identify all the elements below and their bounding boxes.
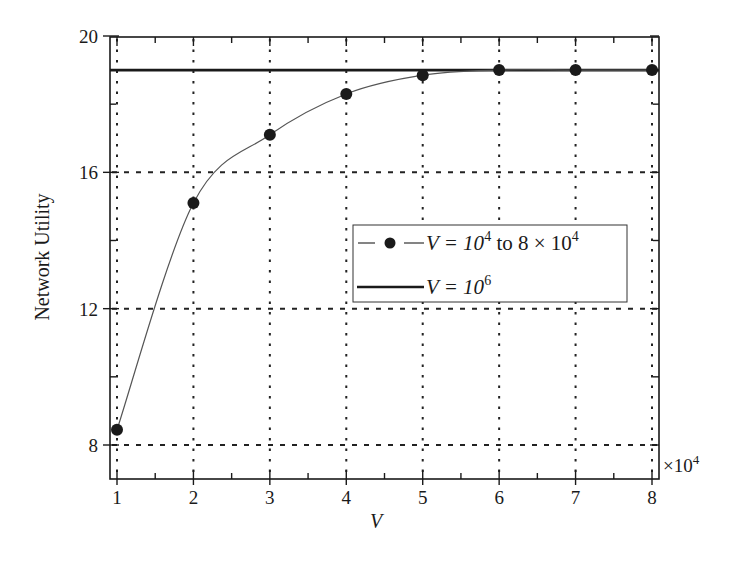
- x-tick-label: 3: [265, 487, 275, 508]
- legend-marker-icon: [385, 238, 396, 249]
- x-tick-label: 4: [342, 487, 352, 508]
- y-tick-label: 16: [79, 162, 98, 183]
- y-tick-labels: 8121620: [79, 26, 98, 456]
- x-tick-label: 1: [112, 487, 122, 508]
- y-tick-label: 20: [79, 26, 98, 47]
- y-tick-label: 12: [79, 299, 98, 320]
- x-tick-label: 6: [494, 487, 504, 508]
- data-point-marker: [570, 64, 582, 76]
- data-point-marker: [646, 64, 658, 76]
- data-point-marker: [187, 197, 199, 209]
- legend-label-v-1e6: V = 106: [426, 273, 491, 299]
- legend-label-v-range: V = 104 to 8 × 104: [426, 229, 579, 255]
- x-axis-label: V: [370, 510, 385, 532]
- x-tick-label: 8: [647, 487, 657, 508]
- x-tick-label: 2: [189, 487, 199, 508]
- x-tick-labels: 12345678: [112, 487, 657, 508]
- x-multiplier-label: ×104: [663, 452, 700, 476]
- data-point-marker: [417, 69, 429, 81]
- data-point-marker: [264, 129, 276, 141]
- x-tick-label: 5: [418, 487, 428, 508]
- y-axis-label: Network Utility: [31, 193, 54, 320]
- network-utility-chart: 8121620 12345678 Network Utility V ×104 …: [0, 0, 741, 562]
- data-point-marker: [111, 424, 123, 436]
- legend: V = 104 to 8 × 104 V = 106: [353, 225, 627, 302]
- data-point-marker: [340, 88, 352, 100]
- data-point-marker: [493, 64, 505, 76]
- y-tick-label: 8: [89, 435, 99, 456]
- x-tick-label: 7: [571, 487, 581, 508]
